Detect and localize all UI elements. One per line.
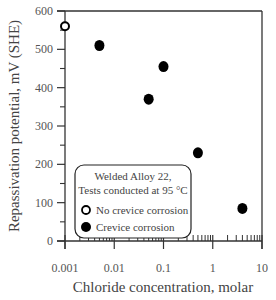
legend: Welded Alloy 22, Tests conducted at 95 °…: [75, 165, 191, 238]
filled-circle-marker: [159, 61, 169, 72]
open-circle-marker: [61, 22, 69, 30]
x-axis-title: Chloride concentration, molar: [73, 279, 253, 295]
filled-circle-icon: [81, 222, 91, 232]
y-axis-title: Repassivation potential, mV (SHE): [6, 20, 23, 232]
y-tick-label: 600: [35, 4, 53, 18]
legend-item-crevice: Crevice corrosion: [96, 221, 175, 233]
y-tick-label: 100: [35, 196, 53, 210]
x-tick-label: 0.1: [156, 261, 171, 275]
legend-title-line-2: Tests conducted at 95 °C: [78, 184, 187, 196]
y-axis-ticks: 0100200300400500600: [35, 4, 65, 248]
open-circle-icon: [82, 206, 90, 214]
y-tick-label: 300: [35, 119, 53, 133]
x-tick-label: 10: [256, 261, 268, 275]
legend-item-no-crevice: No crevice corrosion: [96, 204, 189, 216]
repassivation-potential-chart: 0100200300400500600 0.0010.010.1110 Weld…: [0, 0, 276, 300]
x-tick-label: 1: [210, 261, 216, 275]
y-tick-label: 200: [35, 157, 53, 171]
x-tick-label: 0.01: [104, 261, 125, 275]
filled-circle-marker: [237, 203, 247, 214]
y-tick-label: 400: [35, 81, 53, 95]
filled-circle-marker: [193, 147, 203, 158]
y-tick-label: 500: [35, 42, 53, 56]
x-tick-label: 0.001: [52, 261, 79, 275]
filled-circle-marker: [94, 40, 104, 51]
y-tick-label: 0: [47, 234, 53, 248]
legend-title-line-1: Welded Alloy 22,: [94, 170, 171, 182]
filled-circle-marker: [144, 94, 154, 105]
